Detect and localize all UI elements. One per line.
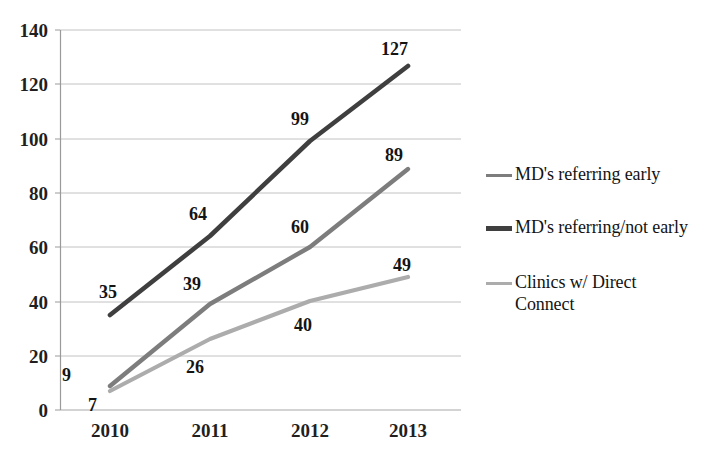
x-axis-tick-label: 2010: [65, 421, 155, 440]
legend-item-clinics-direct-connect[interactable]: Clinics w/ Direct Connect: [486, 272, 636, 316]
data-label-clinics-2012: 40: [294, 316, 312, 334]
data-label-early-2010: 9: [62, 366, 71, 384]
x-axis-tick-label: 2012: [265, 421, 355, 440]
series-line-clinics-direct-connect: [110, 277, 408, 391]
legend-swatch-icon: [486, 174, 512, 177]
data-label-not-early-2010: 35: [99, 283, 117, 301]
y-axis-tick-label: 80: [2, 184, 48, 203]
data-label-not-early-2013: 127: [381, 40, 408, 58]
data-label-clinics-2010: 7: [88, 396, 97, 414]
legend-item-label: MD's referring early: [515, 164, 660, 186]
legend-item-label: Clinics w/ Direct Connect: [515, 272, 636, 316]
data-label-not-early-2011: 64: [189, 205, 207, 223]
data-label-early-2012: 60: [291, 218, 309, 236]
y-axis-tick-label: 20: [2, 347, 48, 366]
y-axis-tick-label: 140: [2, 21, 48, 40]
x-axis-tick-label: 2013: [363, 421, 453, 440]
y-axis-tick-label: 0: [2, 401, 48, 420]
y-axis-tick-label: 60: [2, 238, 48, 257]
y-axis-tick-label: 40: [2, 293, 48, 312]
x-axis-tick-label: 2011: [165, 421, 255, 440]
y-axis-tick-label: 100: [2, 130, 48, 149]
data-label-not-early-2012: 99: [291, 110, 309, 128]
gridlines: [60, 30, 461, 410]
legend-swatch-icon: [486, 226, 512, 231]
y-axis-ticks: [55, 30, 60, 410]
legend-item-mds-referring-early[interactable]: MD's referring early: [486, 164, 660, 186]
data-label-early-2013: 89: [385, 146, 403, 164]
data-label-clinics-2013: 49: [393, 256, 411, 274]
legend-swatch-icon: [486, 282, 512, 285]
legend-item-label: MD's referring/not early: [515, 217, 688, 239]
y-axis-tick-label: 120: [2, 75, 48, 94]
data-label-clinics-2011: 26: [186, 358, 204, 376]
data-label-early-2011: 39: [183, 275, 201, 293]
legend-item-mds-referring-not-early[interactable]: MD's referring/not early: [486, 217, 688, 239]
line-chart: 140 120 100 80 60 40 20 0 2010 2011 2012…: [0, 0, 720, 461]
